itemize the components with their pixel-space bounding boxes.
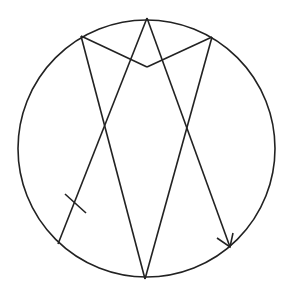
segment-upper-left-to-v: [81, 36, 147, 67]
tick-mark: [65, 194, 86, 213]
path-segments: [58, 18, 230, 279]
segment-top-to-lower-right: [147, 18, 230, 247]
segment-upper-left-to-bottom: [81, 36, 145, 279]
segment-lower-left-to-top: [58, 18, 147, 244]
segment-bottom-to-upper-right: [145, 37, 212, 279]
segment-v-to-upper-right: [147, 37, 212, 67]
circle-outline: [18, 20, 275, 277]
light-path-diagram: [0, 0, 287, 294]
